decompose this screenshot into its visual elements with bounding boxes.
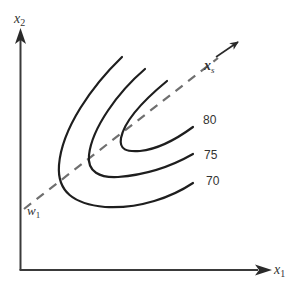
origin-label: w1: [27, 203, 40, 220]
contour-75: [89, 69, 193, 177]
contour-80: [121, 81, 193, 151]
direction-arrow: [216, 42, 238, 57]
y-axis-label: x2: [13, 11, 25, 28]
contour-diagram: x2 x1 xs w1 80 75 70: [0, 0, 294, 287]
contour-label-80: 80: [203, 113, 217, 127]
x-axis-label: x1: [273, 262, 285, 279]
contour-label-75: 75: [204, 148, 218, 162]
contour-label-70: 70: [206, 174, 220, 188]
contour-70: [59, 57, 193, 207]
